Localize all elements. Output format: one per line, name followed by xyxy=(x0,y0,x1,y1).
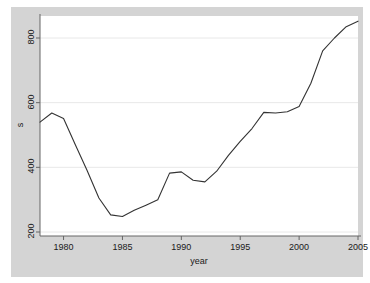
x-tick-label-1995: 1995 xyxy=(223,242,257,252)
x-axis-title: year xyxy=(179,256,219,266)
y-axis-title: s xyxy=(15,115,25,135)
x-tick-label-1990: 1990 xyxy=(164,242,198,252)
y-tick-label-200: 200 xyxy=(26,219,36,243)
y-tick-label-400: 400 xyxy=(26,154,36,178)
data-line xyxy=(40,21,358,216)
axis-lines xyxy=(40,14,361,236)
x-tick-label-2005: 2005 xyxy=(341,242,370,252)
tick-marks xyxy=(36,38,358,240)
gridlines xyxy=(40,38,358,232)
x-tick-label-1980: 1980 xyxy=(47,242,81,252)
y-tick-label-600: 600 xyxy=(26,90,36,114)
chart-figure: 200400600800 198019851990199520002005 s … xyxy=(0,0,370,283)
x-tick-label-1985: 1985 xyxy=(105,242,139,252)
x-tick-label-2000: 2000 xyxy=(282,242,316,252)
y-tick-label-800: 800 xyxy=(26,25,36,49)
chart-svg xyxy=(0,0,370,283)
series-path-s xyxy=(40,21,358,216)
